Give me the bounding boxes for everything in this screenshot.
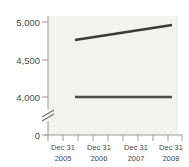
- x-tick-label-line2: 2007: [128, 154, 145, 163]
- x-tick-label-line2: 2008: [163, 154, 180, 163]
- line-chart: 5,000 4,500 4,000 0 Dec 31 2005 Dec 31: [0, 0, 189, 167]
- x-tick-label-group-2007: Dec 31 2007: [124, 143, 148, 163]
- y-tick-label-5000: 5,000: [16, 17, 40, 28]
- y-tick-label-4500: 4,500: [16, 55, 40, 66]
- x-tick-label-group-2008: Dec 31 2008: [159, 143, 183, 163]
- x-tick-label-line2: 2005: [55, 154, 72, 163]
- x-tick-label-line1: Dec 31: [159, 143, 183, 152]
- x-tick-label-group-2005: Dec 31 2005: [51, 143, 75, 163]
- x-tick-label-line1: Dec 31: [87, 143, 111, 152]
- x-tick-label-line1: Dec 31: [51, 143, 75, 152]
- y-tick-label-4000: 4,000: [16, 92, 40, 103]
- chart-canvas: 5,000 4,500 4,000 0 Dec 31 2005 Dec 31: [0, 0, 189, 167]
- x-axis-ticks: [48, 135, 182, 141]
- x-tick-label-line1: Dec 31: [124, 143, 148, 152]
- y-tick-label-0: 0: [35, 130, 40, 141]
- x-tick-label-group-2006: Dec 31 2006: [87, 143, 111, 163]
- x-tick-label-line2: 2006: [91, 154, 108, 163]
